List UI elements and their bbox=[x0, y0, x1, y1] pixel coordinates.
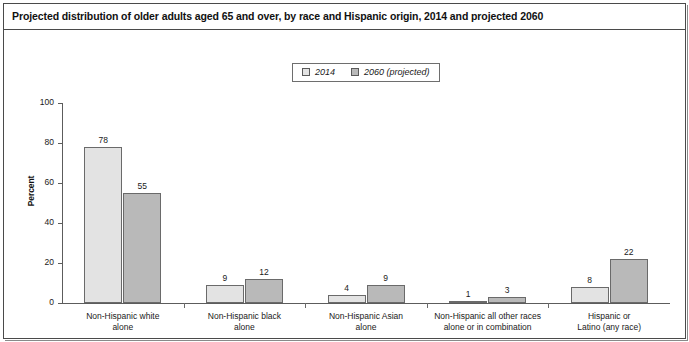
bar-2014-2 bbox=[328, 295, 366, 303]
figure-border bbox=[3, 3, 686, 339]
legend-label-2014: 2014 bbox=[315, 67, 335, 77]
bar-value-label: 8 bbox=[570, 275, 610, 285]
legend-label-2060: 2060 (projected) bbox=[364, 67, 430, 77]
x-axis-category-label: Hispanic or Latino (any race) bbox=[548, 311, 670, 333]
bar-value-label: 22 bbox=[609, 247, 649, 257]
x-axis-group-tick bbox=[427, 303, 428, 308]
legend-entry-2060: 2060 (projected) bbox=[351, 67, 430, 77]
bar-2060-projected--3 bbox=[488, 297, 526, 303]
legend-swatch-2014-icon bbox=[302, 68, 310, 76]
bar-2014-3 bbox=[449, 301, 487, 303]
x-axis-category-label: Non-Hispanic white alone bbox=[62, 311, 184, 333]
y-axis-tick bbox=[58, 103, 62, 104]
bar-value-label: 55 bbox=[122, 181, 162, 191]
y-axis-tick bbox=[58, 183, 62, 184]
bar-value-label: 12 bbox=[244, 267, 284, 277]
bar-value-label: 78 bbox=[83, 135, 123, 145]
x-axis-category-label: Non-Hispanic all other races alone or in… bbox=[427, 311, 549, 333]
chart-plot-area: Percent 0204060801007855Non-Hispanic whi… bbox=[0, 0, 689, 342]
figure-border-shadow bbox=[5, 5, 688, 341]
bar-2014-0 bbox=[84, 147, 122, 303]
y-axis-title: Percent bbox=[26, 156, 36, 226]
bar-value-label: 9 bbox=[205, 273, 245, 283]
y-axis-tick-label: 0 bbox=[28, 297, 54, 307]
y-axis-tick-label: 20 bbox=[28, 257, 54, 267]
bar-2014-1 bbox=[206, 285, 244, 303]
legend-swatch-2060-icon bbox=[351, 68, 359, 76]
bar-value-label: 9 bbox=[366, 273, 406, 283]
bar-2060-projected--4 bbox=[610, 259, 648, 303]
y-axis-line bbox=[62, 103, 63, 304]
bar-2060-projected--1 bbox=[245, 279, 283, 303]
y-axis-tick bbox=[58, 143, 62, 144]
chart-legend: 2014 2060 (projected) bbox=[292, 63, 440, 82]
bar-value-label: 1 bbox=[448, 289, 488, 299]
x-axis-line bbox=[62, 303, 670, 304]
y-axis-tick bbox=[58, 303, 62, 304]
bar-value-label: 3 bbox=[487, 285, 527, 295]
x-axis-category-label: Non-Hispanic Asian alone bbox=[305, 311, 427, 333]
figure-title: Projected distribution of older adults a… bbox=[3, 10, 543, 22]
y-axis-tick bbox=[58, 263, 62, 264]
y-axis-tick-label: 60 bbox=[28, 177, 54, 187]
bar-value-label: 4 bbox=[327, 283, 367, 293]
figure-panel: Projected distribution of older adults a… bbox=[0, 0, 689, 342]
x-axis-group-tick bbox=[305, 303, 306, 308]
bar-2060-projected--2 bbox=[367, 285, 405, 303]
y-axis-tick-label: 40 bbox=[28, 217, 54, 227]
y-axis-tick-label: 80 bbox=[28, 137, 54, 147]
y-axis-tick-label: 100 bbox=[28, 97, 54, 107]
x-axis-category-label: Non-Hispanic black alone bbox=[184, 311, 306, 333]
figure-title-bar: Projected distribution of older adults a… bbox=[3, 3, 686, 30]
x-axis-group-tick bbox=[548, 303, 549, 308]
legend-entry-2014: 2014 bbox=[302, 67, 335, 77]
bar-2060-projected--0 bbox=[123, 193, 161, 303]
y-axis-tick bbox=[58, 223, 62, 224]
x-axis-group-tick bbox=[184, 303, 185, 308]
bar-2014-4 bbox=[571, 287, 609, 303]
